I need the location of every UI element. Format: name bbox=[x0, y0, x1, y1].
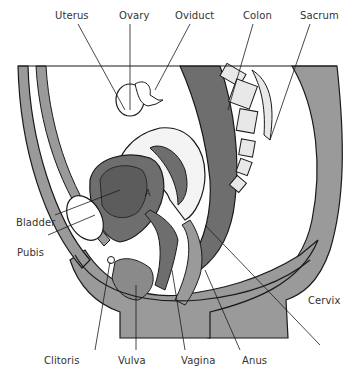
label-colon: Colon bbox=[243, 10, 272, 21]
bladder-inner bbox=[100, 166, 147, 218]
label-oviduct: Oviduct bbox=[175, 10, 214, 21]
anatomy-diagram: A Uterus Ovary Oviduct Colon Sacrum Blad… bbox=[0, 0, 353, 385]
label-vagina: Vagina bbox=[181, 355, 215, 366]
label-bladder: Bladder bbox=[16, 217, 55, 228]
label-clitoris: Clitoris bbox=[44, 355, 79, 366]
diagram-drawing: A bbox=[0, 0, 353, 385]
label-cervix: Cervix bbox=[308, 295, 340, 306]
label-vulva: Vulva bbox=[118, 355, 146, 366]
label-ovary: Ovary bbox=[119, 10, 149, 21]
bladder-marker: A bbox=[145, 189, 151, 198]
label-pubis: Pubis bbox=[17, 247, 44, 258]
label-sacrum: Sacrum bbox=[300, 10, 339, 21]
abdominal-wall-left bbox=[18, 66, 90, 268]
clitoris-shape bbox=[108, 257, 115, 264]
label-uterus: Uterus bbox=[55, 10, 89, 21]
label-anus: Anus bbox=[242, 355, 267, 366]
